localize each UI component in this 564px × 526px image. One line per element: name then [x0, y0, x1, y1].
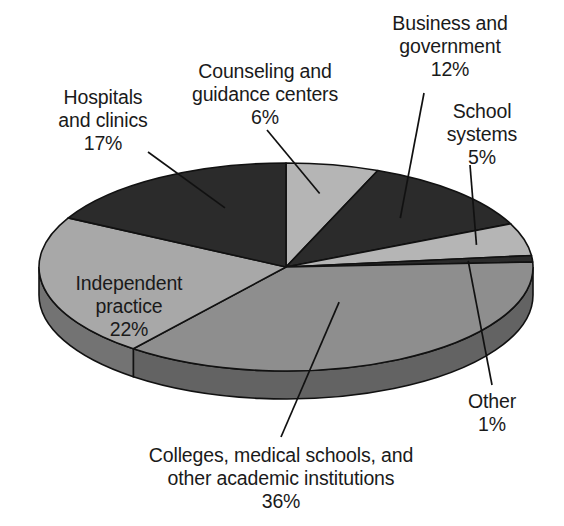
slice-label-school-systems: School systems 5% [412, 100, 552, 169]
slice-label-hospitals-and-clinics: Hospitals and clinics 17% [14, 86, 192, 155]
slice-label-business-and-government: Business and government 12% [370, 12, 530, 81]
slice-label-other: Other 1% [440, 390, 544, 436]
slice-label-independent-practice: Independent practice 22% [44, 272, 214, 341]
slice-label-counseling-and-guidance-centers: Counseling and guidance centers 6% [172, 60, 358, 129]
slice-label-colleges-medical-schools: Colleges, medical schools, and other aca… [116, 444, 446, 513]
pie-chart-figure: Hospitals and clinics 17% Counseling and… [0, 0, 564, 526]
